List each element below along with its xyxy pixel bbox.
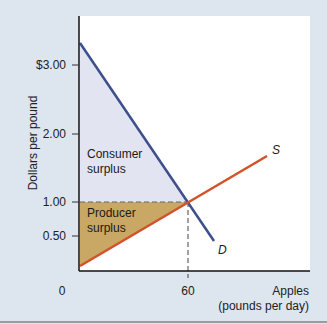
x-tick-label: 60: [181, 284, 195, 298]
demand-label: D: [218, 243, 227, 257]
y-tick-label: $3.00: [36, 58, 66, 72]
x-axis-title-line2: (pounds per day): [218, 299, 309, 313]
y-tick-label: 1.00: [43, 195, 67, 209]
producer-surplus-label-line1: Producer: [87, 206, 136, 220]
y-axis-title: Dollars per pound: [26, 96, 40, 191]
x-axis-title-line1: Apples: [272, 284, 309, 298]
y-tick-label: 2.00: [43, 127, 67, 141]
supply-demand-chart: $3.00 2.00 1.00 0.50 0 60 Dollars per po…: [0, 0, 327, 324]
y-tick-label: 0.50: [43, 229, 67, 243]
supply-label: S: [272, 143, 280, 157]
consumer-surplus-label-line1: Consumer: [87, 147, 142, 161]
consumer-surplus-label-line2: surplus: [87, 162, 126, 176]
x-tick-label: 0: [59, 284, 66, 298]
producer-surplus-label-line2: surplus: [87, 221, 126, 235]
